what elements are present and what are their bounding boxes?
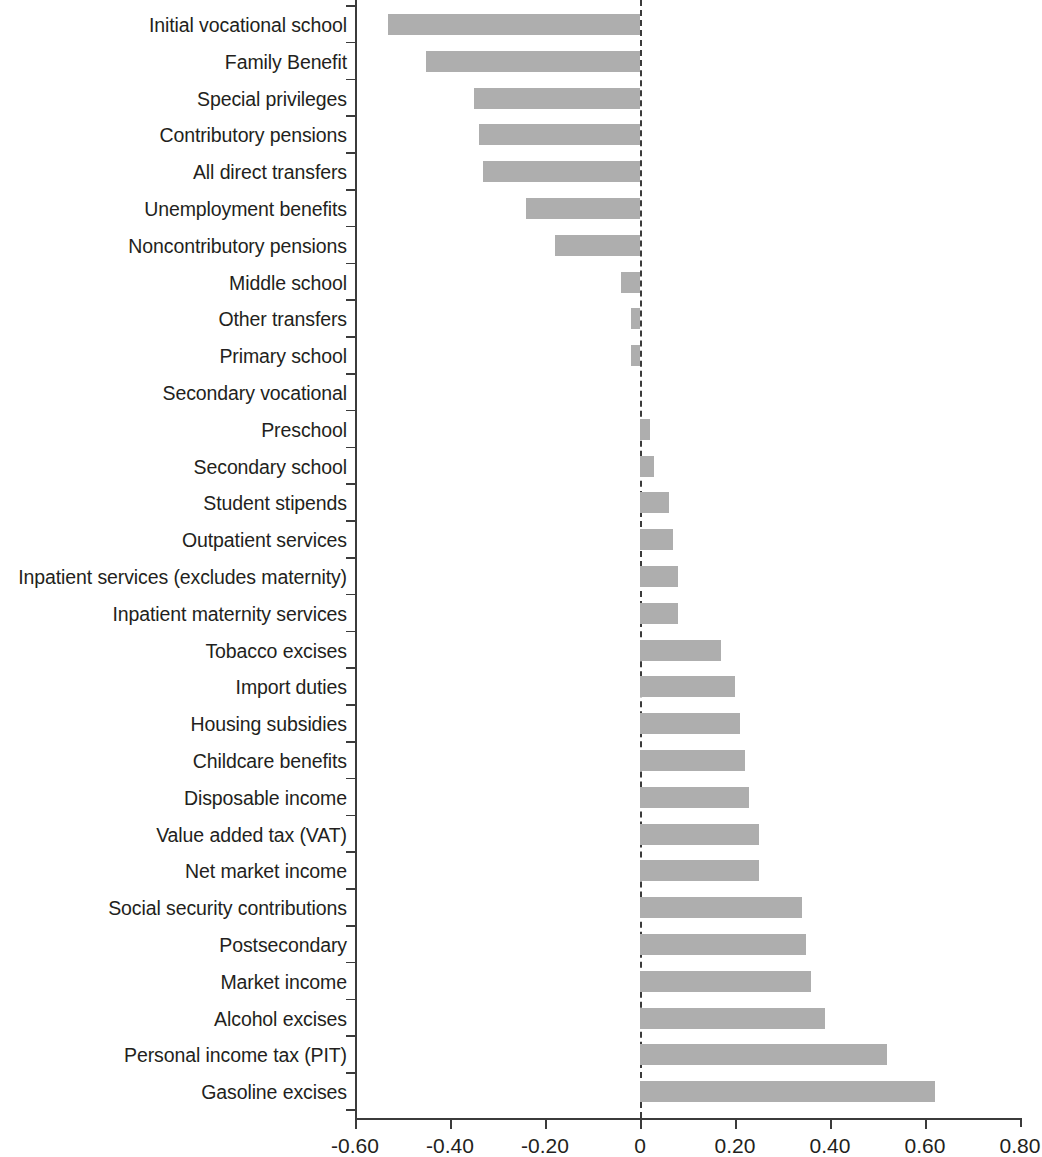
y-axis-tick	[346, 410, 356, 412]
x-axis-tick-label: 0.80	[1000, 1134, 1041, 1157]
y-axis-tick	[346, 79, 356, 81]
y-axis-line	[355, 0, 357, 1118]
x-axis-tick-label: -0.60	[331, 1134, 379, 1157]
bar	[640, 676, 735, 697]
x-axis-line	[355, 1118, 1020, 1120]
y-axis-tick	[346, 226, 356, 228]
category-label: Alcohol excises	[0, 1009, 347, 1029]
x-axis-tick	[545, 1118, 547, 1129]
y-axis-tick	[346, 520, 356, 522]
bar	[640, 456, 654, 477]
x-axis-tick	[640, 1118, 642, 1129]
y-axis-tick	[346, 1109, 356, 1111]
x-axis-tick-label: 0.20	[715, 1134, 756, 1157]
y-axis-tick	[346, 741, 356, 743]
bar	[640, 1008, 825, 1029]
category-label: Secondary vocational	[0, 383, 347, 403]
category-label: Tobacco excises	[0, 641, 347, 661]
bar	[640, 934, 806, 955]
bar	[483, 161, 640, 182]
category-label: Social security contributions	[0, 898, 347, 918]
x-axis-tick	[925, 1118, 927, 1129]
bar	[640, 971, 811, 992]
y-axis-tick	[346, 778, 356, 780]
plot-area	[355, 0, 1042, 1118]
category-label: Net market income	[0, 861, 347, 881]
bar	[640, 1044, 887, 1065]
y-axis-tick	[346, 336, 356, 338]
y-axis-tick	[346, 1035, 356, 1037]
x-axis-tick-label: 0.60	[905, 1134, 946, 1157]
y-axis-tick	[346, 447, 356, 449]
category-label: Contributory pensions	[0, 125, 347, 145]
y-axis-tick	[346, 962, 356, 964]
x-axis-tick	[735, 1118, 737, 1129]
category-label: Primary school	[0, 346, 347, 366]
bar	[426, 51, 640, 72]
category-label: Outpatient services	[0, 530, 347, 550]
x-axis: -0.60-0.40-0.2000.200.400.600.80	[355, 1118, 1042, 1152]
bar	[640, 603, 678, 624]
y-axis-tick	[346, 299, 356, 301]
x-axis-tick	[1020, 1118, 1022, 1127]
category-label: Preschool	[0, 420, 347, 440]
x-axis-tick	[830, 1118, 832, 1129]
x-axis-tick	[450, 1118, 452, 1129]
bar	[640, 787, 749, 808]
category-label: Family Benefit	[0, 52, 347, 72]
y-axis-tick	[346, 373, 356, 375]
category-label: Import duties	[0, 677, 347, 697]
bar	[640, 824, 759, 845]
bar	[640, 529, 673, 550]
bar	[640, 419, 650, 440]
x-axis-tick-label: -0.40	[426, 1134, 474, 1157]
bar	[621, 272, 640, 293]
category-label: Student stipends	[0, 493, 347, 513]
category-label: Secondary school	[0, 457, 347, 477]
category-label-column: Initial vocational schoolFamily BenefitS…	[0, 0, 347, 1118]
bar	[640, 750, 745, 771]
bar	[640, 1081, 935, 1102]
category-label: Special privileges	[0, 89, 347, 109]
bar	[555, 235, 641, 256]
bar	[526, 198, 640, 219]
bar	[640, 566, 678, 587]
y-axis-tick	[346, 851, 356, 853]
category-label: Value added tax (VAT)	[0, 825, 347, 845]
category-label: Childcare benefits	[0, 751, 347, 771]
y-axis-tick	[346, 5, 356, 7]
category-label: Other transfers	[0, 309, 347, 329]
category-label: Personal income tax (PIT)	[0, 1045, 347, 1065]
y-axis-tick	[346, 42, 356, 44]
category-label: Noncontributory pensions	[0, 236, 347, 256]
bar	[474, 88, 640, 109]
bar	[631, 345, 641, 366]
x-axis-tick-label: -0.20	[521, 1134, 569, 1157]
category-label: Housing subsidies	[0, 714, 347, 734]
bar	[640, 492, 669, 513]
y-axis-tick	[346, 594, 356, 596]
category-label: Disposable income	[0, 788, 347, 808]
bar	[631, 308, 641, 329]
y-axis-tick	[346, 263, 356, 265]
bar	[388, 14, 640, 35]
y-axis-tick	[346, 1072, 356, 1074]
y-axis-tick	[346, 888, 356, 890]
category-label: Inpatient maternity services	[0, 604, 347, 624]
bar	[640, 897, 802, 918]
y-axis-tick	[346, 815, 356, 817]
y-axis-tick	[346, 483, 356, 485]
category-label: Inpatient services (excludes maternity)	[0, 567, 347, 587]
y-axis-tick	[346, 925, 356, 927]
bar	[640, 860, 759, 881]
y-axis-tick	[346, 667, 356, 669]
category-label: All direct transfers	[0, 162, 347, 182]
bar	[479, 124, 641, 145]
y-axis-tick	[346, 557, 356, 559]
y-axis-tick	[346, 115, 356, 117]
x-axis-tick-label: 0.40	[810, 1134, 851, 1157]
x-axis-tick	[355, 1118, 357, 1129]
y-axis-tick	[346, 152, 356, 154]
y-axis-tick	[346, 704, 356, 706]
category-label: Initial vocational school	[0, 15, 347, 35]
